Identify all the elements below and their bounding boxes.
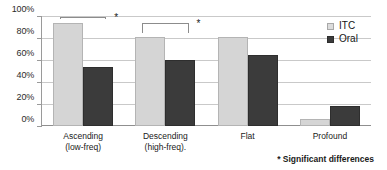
- y-tick-mark: [37, 126, 42, 127]
- significance-asterisk-descending: *: [197, 19, 201, 29]
- bar-group-ascending: *: [42, 16, 124, 126]
- significance-asterisk-ascending: *: [114, 13, 118, 23]
- y-tick-label: 20%: [17, 93, 34, 102]
- bar-itc-profound[interactable]: [300, 119, 330, 126]
- bar-itc-flat[interactable]: [218, 37, 248, 126]
- significance-bracket-descending: [142, 23, 188, 33]
- legend-item-oral[interactable]: Oral: [327, 34, 358, 44]
- significance-bracket-ascending: [60, 17, 106, 19]
- bar-groups: * *: [42, 16, 371, 126]
- x-axis-label-line1: Flat: [241, 131, 255, 141]
- legend-label-itc: ITC: [339, 21, 355, 31]
- legend-swatch-icon-oral: [327, 36, 334, 43]
- y-tick-label: 0%: [21, 115, 34, 124]
- x-axis-label-descending: Descending (high-freq).: [124, 131, 206, 152]
- bar-oral-flat[interactable]: [248, 55, 278, 127]
- x-axis-label-line2: (high-freq).: [124, 142, 206, 153]
- bar-oral-ascending[interactable]: [83, 67, 113, 126]
- x-axis-label-line2: (low-freq): [42, 142, 124, 153]
- legend-label-oral: Oral: [339, 34, 358, 44]
- y-tick-label: 60%: [17, 49, 34, 58]
- plot-area: * *: [42, 16, 371, 126]
- y-axis: 100% 80% 60% 40% 20% 0%: [0, 9, 38, 133]
- y-tick-label: 40%: [17, 71, 34, 80]
- x-axis-label-line1: Profound: [313, 131, 348, 141]
- legend: ITC Oral: [327, 21, 358, 44]
- y-tick-label: 100%: [12, 5, 34, 14]
- legend-item-itc[interactable]: ITC: [327, 21, 358, 31]
- bar-chart: 100% 80% 60% 40% 20% 0% *: [0, 0, 387, 170]
- bar-oral-descending[interactable]: [165, 60, 195, 126]
- x-axis-label-line1: Descending: [143, 131, 188, 141]
- x-axis-label-ascending: Ascending (low-freq): [42, 131, 124, 152]
- x-axis-label-line1: Ascending: [63, 131, 103, 141]
- x-axis-label-profound: Profound: [289, 131, 371, 152]
- bar-oral-profound[interactable]: [330, 106, 360, 126]
- y-tick-label: 80%: [17, 27, 34, 36]
- bar-group-descending: *: [124, 16, 206, 126]
- legend-swatch-icon-itc: [327, 23, 334, 30]
- bar-group-flat: [207, 16, 289, 126]
- x-axis-labels: Ascending (low-freq) Descending (high-fr…: [42, 131, 371, 152]
- footnote: * Significant differences: [277, 154, 374, 164]
- bar-itc-descending[interactable]: [135, 37, 165, 126]
- bar-itc-ascending[interactable]: [53, 23, 83, 126]
- x-axis-label-flat: Flat: [207, 131, 289, 152]
